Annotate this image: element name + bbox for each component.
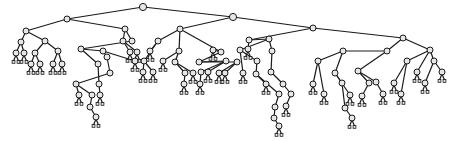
tree-node [342, 105, 348, 111]
tree-node [380, 91, 386, 97]
tree-node [254, 58, 260, 64]
tree-node [55, 48, 61, 54]
leaf-square [54, 72, 57, 75]
tree-node [134, 49, 140, 55]
tree-node [276, 91, 282, 97]
tree-node [288, 91, 294, 97]
tree-node [73, 81, 79, 87]
tree-node [276, 123, 282, 129]
tree-diagram [0, 0, 462, 141]
tree-node [427, 47, 433, 53]
tree-edge [143, 7, 233, 17]
tree-node [140, 69, 146, 75]
leaf-square [32, 72, 35, 75]
leaf-square [244, 57, 247, 60]
tree-node [64, 16, 70, 22]
tree-node [76, 92, 82, 98]
leaf-square [96, 103, 99, 106]
leaf-square [209, 80, 212, 83]
leaf-square [348, 126, 351, 129]
tree-node [266, 36, 272, 42]
tree-node [349, 115, 355, 121]
tree-node [271, 115, 277, 121]
leaf-square [154, 80, 157, 83]
tree-node [398, 91, 404, 97]
leaf-square [309, 92, 312, 95]
leaf-square [136, 69, 139, 72]
tree-edge [26, 19, 67, 31]
leaf-square [390, 91, 393, 94]
leaf-square [262, 92, 265, 95]
tree-node [122, 26, 128, 32]
tree-edges [14, 7, 445, 134]
leaf-square [413, 80, 416, 83]
tree-edge [313, 61, 318, 84]
tree-node [263, 81, 269, 87]
leaf-square [214, 58, 217, 61]
tree-node [246, 37, 252, 43]
leaf-square [201, 92, 204, 95]
leaf-square [159, 69, 162, 72]
tree-node [87, 104, 93, 110]
tree-node [234, 59, 240, 65]
tree-node [237, 47, 243, 53]
tree-node [269, 48, 275, 54]
tree-node [104, 54, 110, 60]
tree-node [210, 47, 216, 53]
leaf-square [144, 80, 147, 83]
tree-edge [76, 73, 110, 84]
tree-node [223, 58, 229, 64]
tree-node [127, 49, 133, 55]
tree-node [347, 92, 353, 98]
leaf-square [80, 103, 83, 106]
leaf-square [353, 126, 356, 129]
leaf-square [12, 61, 15, 64]
leaf-square [196, 92, 199, 95]
tree-edge [233, 17, 313, 28]
tree-node [216, 70, 222, 76]
tree-node [18, 39, 24, 45]
leaf-square [239, 81, 242, 84]
tree-node [150, 69, 156, 75]
leaf-square [363, 104, 366, 107]
leaf-square [97, 125, 100, 128]
tree-edge [358, 51, 387, 71]
leaf-square [282, 114, 285, 117]
tree-node [182, 70, 188, 76]
leaf-square [131, 69, 134, 72]
tree-node [414, 69, 420, 75]
leaf-square [395, 91, 398, 94]
leaf-square [185, 92, 188, 95]
tree-node [205, 69, 211, 75]
tree-node [172, 59, 178, 65]
tree-node [21, 50, 27, 56]
leaf-square [402, 102, 405, 105]
tree-node [272, 104, 278, 110]
tree-node [28, 61, 34, 67]
tree-node [93, 114, 99, 120]
leaf-square [139, 80, 142, 83]
tree-node [97, 92, 103, 98]
leaf-square [215, 81, 218, 84]
tree-node [32, 50, 38, 56]
leaf-square [204, 80, 207, 83]
tree-node [240, 70, 246, 76]
leaf-square [58, 72, 61, 75]
tree-node [332, 70, 338, 76]
tree-edge [313, 28, 403, 38]
leaf-square [194, 81, 197, 84]
tree-node [321, 91, 327, 97]
leaf-square [180, 92, 183, 95]
tree-node [190, 70, 196, 76]
tree-edge [318, 61, 324, 94]
tree-node [197, 81, 203, 87]
tree-node [155, 38, 161, 44]
tree-node [96, 81, 102, 87]
tree-node [310, 81, 316, 87]
tree-node [129, 38, 135, 44]
tree-node [359, 93, 365, 99]
tree-node [13, 50, 19, 56]
tree-node [120, 38, 126, 44]
leaf-square [101, 103, 104, 106]
leaf-square [92, 125, 95, 128]
